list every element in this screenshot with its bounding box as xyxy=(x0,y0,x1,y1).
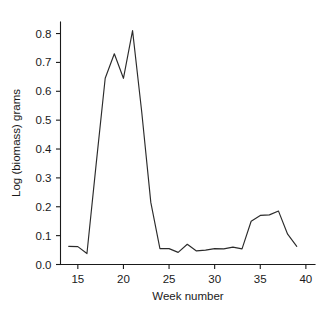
x-tick-label: 20 xyxy=(117,273,130,285)
x-tick-label: 15 xyxy=(71,273,84,285)
y-tick-label: 0.7 xyxy=(36,56,52,68)
x-axis-title: Week number xyxy=(152,290,224,302)
chart-canvas: 0.00.10.20.30.40.50.60.70.8 152025303540… xyxy=(0,0,329,315)
x-axis-tick-labels: 152025303540 xyxy=(71,273,312,285)
y-axis-ticks xyxy=(56,34,61,265)
y-tick-label: 0.8 xyxy=(36,28,52,40)
x-tick-label: 35 xyxy=(254,273,267,285)
y-axis-title: Log (biomass) grams xyxy=(10,89,22,197)
x-tick-label: 25 xyxy=(163,273,176,285)
y-tick-label: 0.6 xyxy=(36,85,52,97)
x-axis-ticks xyxy=(78,265,306,270)
y-tick-label: 0.5 xyxy=(36,114,52,126)
y-tick-label: 0.1 xyxy=(36,230,52,242)
y-tick-label: 0.3 xyxy=(36,172,52,184)
x-tick-label: 40 xyxy=(299,273,312,285)
y-axis-group: 0.00.10.20.30.40.50.60.70.8 xyxy=(36,22,61,271)
biomass-line-chart: 0.00.10.20.30.40.50.60.70.8 152025303540… xyxy=(0,0,329,315)
biomass-series-line xyxy=(69,31,297,254)
y-axis-tick-labels: 0.00.10.20.30.40.50.60.70.8 xyxy=(36,28,53,271)
y-tick-label: 0.2 xyxy=(36,201,52,213)
y-tick-label: 0.4 xyxy=(36,143,53,155)
x-tick-label: 30 xyxy=(208,273,221,285)
y-tick-label: 0.0 xyxy=(36,259,52,271)
x-axis-group: 152025303540 xyxy=(60,265,315,285)
